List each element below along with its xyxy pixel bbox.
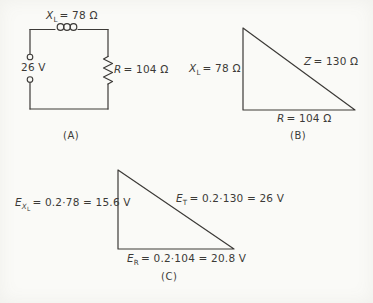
e-variable: E (176, 192, 183, 204)
z-value: = 130 Ω (313, 55, 358, 67)
impedance-xl-label: XL= 78 Ω (189, 62, 241, 74)
source-terminal-top (27, 54, 33, 60)
textbook-figure: XL= 78 Ω 26 V R= 104 Ω (A) XL= 78 Ω Z= 1… (0, 0, 373, 303)
r-variable: R (114, 63, 122, 75)
inductor-loop (64, 24, 71, 31)
inductor-symbol (57, 24, 77, 31)
caption-a: (A) (63, 130, 79, 142)
impedance-r-label: R= 104 Ω (277, 112, 331, 124)
et-value: = 0.2·130 = 26 V (189, 192, 284, 204)
voltage-triangle-shape (118, 170, 234, 249)
xl-subscript: L (196, 68, 200, 77)
source-voltage-label: 26 V (21, 61, 46, 73)
circuit-inductor-label: XL= 78 Ω (46, 9, 98, 21)
inductor-loop (70, 24, 77, 31)
er-value: = 0.2·104 = 20.8 V (141, 252, 246, 264)
circuit-resistor-label: R= 104 Ω (114, 63, 168, 75)
voltage-exl-label: EXL= 0.2·78 = 15.6 V (15, 196, 131, 210)
caption-c: (C) (161, 271, 177, 283)
voltage-et-label: ET= 0.2·130 = 26 V (176, 192, 284, 204)
r-variable: R (277, 112, 285, 124)
caption-b: (B) (290, 130, 306, 142)
inductor-loop (57, 24, 64, 31)
resistor-symbol (104, 57, 113, 85)
impedance-triangle-shape (243, 28, 355, 110)
l-subsubscript: L (27, 207, 30, 213)
xl-value: = 78 Ω (203, 62, 241, 74)
e-subscript-group: XL (22, 202, 31, 211)
source-terminal-bottom (27, 77, 33, 83)
e-variable: E (127, 252, 134, 264)
exl-value: = 0.2·78 = 15.6 V (32, 196, 130, 208)
z-variable: Z (304, 55, 311, 67)
r-subscript: R (134, 258, 139, 267)
r-value: = 104 Ω (287, 112, 332, 124)
impedance-z-label: Z= 130 Ω (304, 55, 358, 67)
t-subscript: T (183, 198, 188, 207)
voltage-er-label: ER= 0.2·104 = 20.8 V (127, 252, 246, 264)
xl-value: = 78 Ω (60, 9, 98, 21)
e-variable: E (15, 196, 22, 208)
r-value: = 104 Ω (124, 63, 169, 75)
xl-subscript: L (53, 15, 57, 24)
